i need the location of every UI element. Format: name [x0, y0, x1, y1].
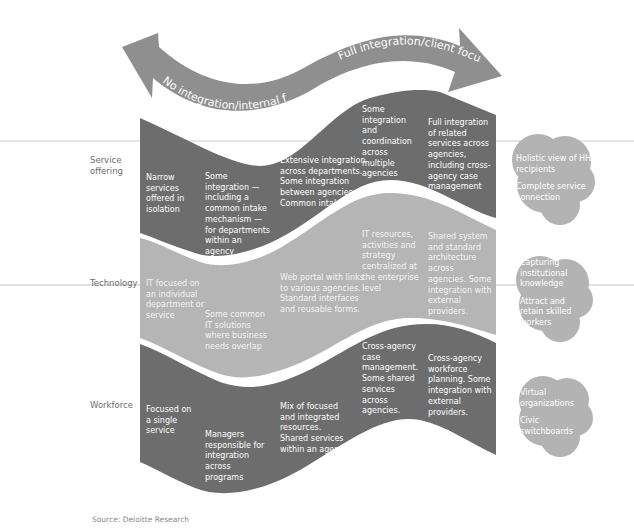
- row-label-technology: Technology: [90, 278, 138, 289]
- integration-maturity-diagram: No integration/internal focus Full integ…: [0, 0, 634, 528]
- service-outcome-2: Complete service connection: [516, 182, 611, 203]
- service-outcomes: Holistic view of HHS recipients Complete…: [516, 154, 611, 210]
- workforce-outcome-1: Virtual organizations: [520, 388, 580, 409]
- workforce-stage-1: Focused on a single service: [146, 405, 196, 437]
- service-stage-2: Some integration — including a common in…: [205, 172, 271, 258]
- service-stage-5: Full integration of related services acr…: [428, 118, 494, 193]
- service-stage-3: Extensive integration across departments…: [280, 156, 366, 210]
- technology-stage-3: Web portal with links to various agencie…: [280, 273, 364, 316]
- row-label-workforce: Workforce: [90, 400, 133, 411]
- technology-stage-5: Shared system and standard architecture …: [428, 232, 492, 318]
- service-stage-1: Narrow services offered in isolation: [146, 173, 202, 216]
- service-stage-4: Some integration and coordination across…: [362, 105, 418, 180]
- source-note: Source: Deloitte Research: [92, 515, 189, 524]
- technology-outcome-2: Attract and retain skilled workers: [520, 297, 590, 329]
- workforce-stage-3: Mix of focused and integrated resources.…: [280, 402, 350, 456]
- service-outcome-1: Holistic view of HHS recipients: [516, 154, 611, 175]
- workforce-stage-5: Cross-agency workforce planning. Some in…: [428, 354, 492, 418]
- workforce-stage-2: Managers responsible for integration acr…: [205, 430, 265, 484]
- workforce-outcome-2: Civic switchboards: [520, 416, 580, 437]
- technology-outcomes: Capturing institutional knowledge Attrac…: [520, 258, 590, 335]
- technology-stage-2: Some common IT solutions where business …: [205, 310, 269, 353]
- workforce-stage-4: Cross-agency case management. Some share…: [362, 342, 420, 417]
- technology-stage-4: IT resources, activities and strategy ce…: [362, 230, 420, 294]
- technology-outcome-1: Capturing institutional knowledge: [520, 258, 590, 290]
- workforce-outcomes: Virtual organizations Civic switchboards: [520, 388, 580, 444]
- row-label-service-offering: Service offering: [90, 155, 140, 177]
- technology-stage-1: IT focused on an individual department o…: [146, 279, 210, 322]
